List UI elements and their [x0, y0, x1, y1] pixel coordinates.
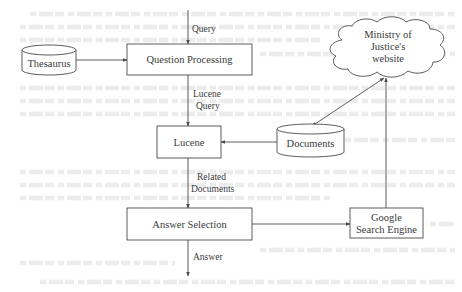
label-answer-selection: Answer Selection: [152, 219, 227, 230]
edge-label-answer: Answer: [193, 252, 223, 262]
edge-label-related-documents-line2: Documents: [191, 184, 235, 194]
qa-system-diagram: Query Lucene Query Related Documents Ans…: [0, 0, 462, 292]
label-ministry-line2: Justice's: [371, 41, 406, 52]
cylinder-top: [277, 124, 344, 134]
edge-label-query: Query: [192, 24, 216, 34]
label-question-processing: Question Processing: [146, 54, 233, 65]
label-google-line2: Search Engine: [356, 224, 417, 235]
label-google-line1: Google: [371, 212, 402, 223]
label-ministry-line1: Ministry of: [364, 29, 412, 40]
cylinder-top: [22, 45, 76, 55]
label-ministry-line3: website: [372, 53, 404, 64]
edge-label-lucene-query-line2: Query: [196, 101, 220, 111]
label-thesaurus: Thesaurus: [27, 58, 70, 69]
edge-label-lucene-query-line1: Lucene: [193, 89, 221, 99]
label-lucene: Lucene: [174, 137, 205, 148]
edge-label-related-documents-line1: Related: [197, 172, 226, 182]
label-documents: Documents: [287, 138, 335, 149]
